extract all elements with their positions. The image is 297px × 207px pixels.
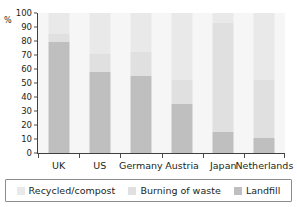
legend-swatch-icon (128, 187, 136, 195)
legend-item[interactable]: Recycled/compost (17, 185, 116, 196)
bar-slot (203, 13, 244, 153)
y-axis-tick-label: 90 (21, 23, 32, 32)
x-axis-category-label-austria: Austria (165, 160, 199, 171)
x-axis-tick-mark (284, 154, 285, 158)
x-axis-tick-mark (38, 154, 39, 158)
bar-segment-landfill[interactable] (172, 104, 193, 153)
bar-slot (79, 13, 120, 153)
bar-segment-burning-of-waste[interactable] (48, 34, 69, 42)
bar-slot (38, 13, 79, 153)
stacked-bar[interactable] (130, 13, 151, 153)
bar-segment-landfill[interactable] (130, 76, 151, 153)
legend-item[interactable]: Landfill (234, 185, 280, 196)
y-axis-tick-label: 30 (21, 107, 32, 116)
stacked-bar[interactable] (172, 13, 193, 153)
bar-segment-recycled-compost[interactable] (89, 13, 110, 54)
x-axis-tick-mark (244, 154, 245, 158)
bar-segment-recycled-compost[interactable] (172, 13, 193, 80)
bar-slot (120, 13, 161, 153)
y-axis-unit-label: % (4, 17, 12, 25)
bar-segment-burning-of-waste[interactable] (130, 52, 151, 76)
legend-swatch-icon (17, 187, 25, 195)
stacked-bar-chart-figure: % 0102030405060708090100 UKUSGermanyAust… (0, 0, 297, 207)
legend-label: Landfill (246, 185, 280, 196)
x-axis-tick-mark (203, 154, 204, 158)
bar-segment-recycled-compost[interactable] (254, 13, 275, 80)
stacked-bar[interactable] (254, 13, 275, 153)
x-axis: UKUSGermanyAustriaJapanNetherlands (38, 154, 285, 176)
bar-segment-burning-of-waste[interactable] (172, 80, 193, 104)
stacked-bar[interactable] (48, 13, 69, 153)
plot-wrapper: 0102030405060708090100 UKUSGermanyAustri… (17, 13, 285, 163)
bar-slot (162, 13, 203, 153)
y-axis-tick-label: 10 (21, 135, 32, 144)
x-axis-tick-mark (162, 154, 163, 158)
bar-segment-landfill[interactable] (213, 132, 234, 153)
x-axis-tick-mark (79, 154, 80, 158)
x-axis-category-label-uk: UK (52, 160, 65, 171)
y-axis-tick-label: 0 (27, 149, 32, 158)
bar-segment-burning-of-waste[interactable] (213, 23, 234, 132)
legend-item[interactable]: Burning of waste (128, 185, 220, 196)
bar-segment-burning-of-waste[interactable] (254, 80, 275, 137)
legend-swatch-icon (234, 187, 242, 195)
legend-label: Recycled/compost (29, 185, 116, 196)
bar-segment-burning-of-waste[interactable] (89, 54, 110, 72)
x-axis-category-label-netherlands: Netherlands (235, 160, 293, 171)
plot-area (38, 13, 285, 153)
bar-segment-recycled-compost[interactable] (130, 13, 151, 52)
y-axis-tick-label: 60 (21, 65, 32, 74)
stacked-bar[interactable] (89, 13, 110, 153)
bar-slot (244, 13, 285, 153)
y-axis-tick-label: 20 (21, 121, 32, 130)
x-axis-category-label-japan: Japan (210, 160, 237, 171)
x-axis-category-label-us: US (93, 160, 106, 171)
chart-legend: Recycled/compostBurning of wasteLandfill (5, 179, 292, 202)
y-axis: 0102030405060708090100 (17, 13, 37, 154)
bar-segment-recycled-compost[interactable] (213, 13, 234, 23)
bar-segment-recycled-compost[interactable] (48, 13, 69, 34)
legend-label: Burning of waste (140, 185, 220, 196)
bar-segment-landfill[interactable] (89, 72, 110, 153)
y-axis-tick-label: 40 (21, 93, 32, 102)
x-axis-tick-mark (120, 154, 121, 158)
y-axis-tick-label: 100 (16, 9, 32, 18)
x-axis-category-label-germany: Germany (119, 160, 163, 171)
y-axis-tick-label: 70 (21, 51, 32, 60)
stacked-bar[interactable] (213, 13, 234, 153)
bar-segment-landfill[interactable] (48, 42, 69, 153)
bar-segment-landfill[interactable] (254, 138, 275, 153)
y-axis-tick-label: 50 (21, 79, 32, 88)
y-axis-tick-label: 80 (21, 37, 32, 46)
